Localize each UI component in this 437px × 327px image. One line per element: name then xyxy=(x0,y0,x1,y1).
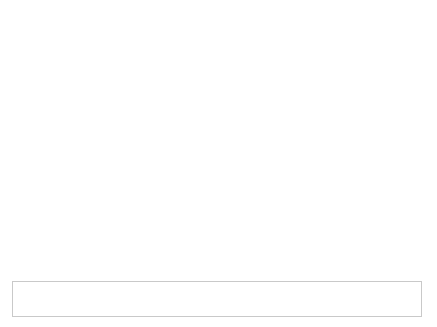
chart-page xyxy=(0,0,437,327)
chart-area xyxy=(0,18,437,273)
stacked-area-chart xyxy=(0,18,437,273)
legend-panel xyxy=(12,281,422,317)
